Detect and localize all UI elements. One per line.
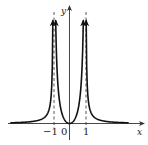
x-tick-label-0: 0: [61, 126, 67, 137]
x-axis-label: x: [137, 127, 142, 137]
curve-center-branch-right: [70, 20, 84, 123]
y-axis-label: y: [60, 6, 67, 16]
curve-right-outer-branch: [86, 20, 129, 123]
curve-center-branch-left: [56, 20, 70, 123]
x-tick-label-1: 1: [83, 126, 89, 137]
function-graph: y x −1 0 1: [0, 0, 148, 145]
x-tick-label-minus-1: −1: [43, 126, 58, 137]
curve-left-outer-branch: [10, 20, 53, 123]
